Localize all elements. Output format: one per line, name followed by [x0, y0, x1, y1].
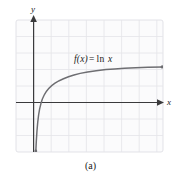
function-argument: (x) — [77, 54, 88, 64]
figure-container: y x f(x)=ln x (a) — [0, 0, 181, 180]
ln-operator: ln — [96, 54, 106, 64]
curve-startpoint — [34, 150, 37, 153]
plot-svg — [0, 0, 181, 180]
y-axis-arrowhead — [30, 15, 37, 22]
equals-sign: = — [88, 54, 96, 64]
y-axis-label: y — [31, 5, 35, 14]
x-axis-label: x — [167, 98, 171, 107]
function-variable: x — [108, 54, 112, 64]
figure-caption: (a) — [0, 160, 181, 171]
function-equation-label: f(x)=ln x — [74, 54, 112, 64]
